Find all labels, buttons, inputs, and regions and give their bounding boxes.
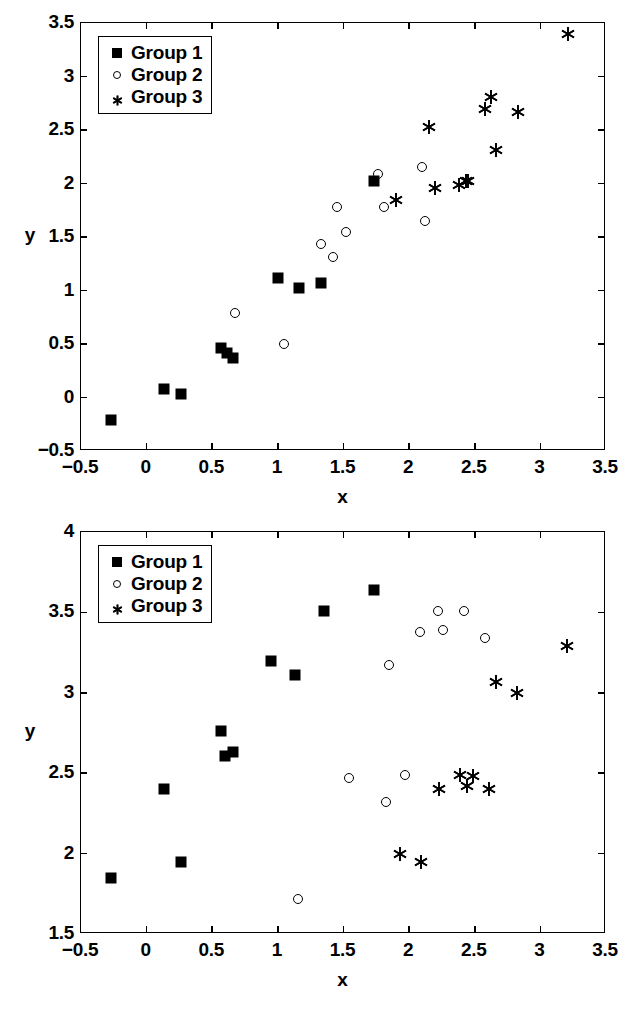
x-tick-label: 0.5 xyxy=(198,939,224,961)
y-tick-right xyxy=(598,772,604,774)
legend-entry: Group 3 xyxy=(106,86,202,108)
data-point-square xyxy=(289,670,300,681)
y-tick-label: 1.5 xyxy=(48,225,74,247)
x-tick-label: 3 xyxy=(534,456,544,478)
data-point-asterisk xyxy=(421,119,436,134)
y-axis-title: y xyxy=(18,224,42,246)
data-point-square xyxy=(175,389,186,400)
x-tick xyxy=(540,443,542,449)
y-tick xyxy=(81,129,87,131)
x-tick-label: 2 xyxy=(403,939,413,961)
y-tick-right xyxy=(598,183,604,185)
data-point-asterisk xyxy=(461,174,476,189)
plot-canvas-bottom: 1.522.533.54−0.500.511.522.533.5xyGroup … xyxy=(0,505,638,1010)
data-point-square xyxy=(228,352,239,363)
data-point-asterisk xyxy=(483,89,498,104)
y-tick-label: 3.5 xyxy=(48,600,74,622)
legend-asterisk-icon xyxy=(106,601,128,612)
y-tick-right xyxy=(598,129,604,131)
x-tick-label: 1 xyxy=(272,939,282,961)
x-tick xyxy=(343,926,345,932)
x-tick-label: 2.5 xyxy=(461,939,487,961)
y-tick xyxy=(81,76,87,78)
data-point-circle xyxy=(384,660,394,670)
y-tick-right xyxy=(598,612,604,614)
x-tick xyxy=(211,443,213,449)
x-tick-top xyxy=(343,23,345,29)
legend-entry: Group 3 xyxy=(106,595,202,617)
x-tick-label: 1 xyxy=(272,456,282,478)
y-tick-right xyxy=(598,692,604,694)
x-tick xyxy=(474,443,476,449)
y-tick-label: 3 xyxy=(64,681,74,703)
legend-label: Group 1 xyxy=(128,43,202,63)
x-tick xyxy=(146,926,148,932)
y-tick-label: 1 xyxy=(64,279,74,301)
legend-entry: Group 1 xyxy=(106,42,202,64)
y-tick xyxy=(81,772,87,774)
data-point-asterisk xyxy=(488,674,503,689)
x-tick xyxy=(146,443,148,449)
x-tick-top xyxy=(343,532,345,538)
y-tick-label: 0.5 xyxy=(48,332,74,354)
data-point-circle xyxy=(417,162,427,172)
y-tick-label: 3.5 xyxy=(48,11,74,33)
x-tick-top xyxy=(211,23,213,29)
x-tick xyxy=(277,926,279,932)
data-point-asterisk xyxy=(560,26,575,41)
y-tick-label: 3 xyxy=(64,65,74,87)
x-tick-label: 2.5 xyxy=(461,456,487,478)
x-tick xyxy=(211,926,213,932)
data-point-circle xyxy=(293,894,303,904)
data-point-circle xyxy=(415,627,425,637)
data-point-asterisk xyxy=(428,180,443,195)
x-tick-top xyxy=(277,23,279,29)
y-tick-right xyxy=(598,853,604,855)
x-tick-label: 0.5 xyxy=(198,456,224,478)
data-point-circle xyxy=(341,227,351,237)
data-point-square xyxy=(106,414,117,425)
data-point-square xyxy=(228,747,239,758)
y-tick-label: 2 xyxy=(64,172,74,194)
data-point-circle xyxy=(420,216,430,226)
data-point-circle xyxy=(328,252,338,262)
y-tick-label: 2 xyxy=(64,842,74,864)
data-point-square xyxy=(368,584,379,595)
legend-circle-icon xyxy=(106,580,128,588)
data-point-circle xyxy=(381,797,391,807)
legend-circle-icon xyxy=(106,71,128,79)
y-tick xyxy=(81,692,87,694)
y-tick xyxy=(81,183,87,185)
data-point-square xyxy=(318,605,329,616)
y-tick-right xyxy=(598,76,604,78)
data-point-asterisk xyxy=(432,782,447,797)
x-tick xyxy=(343,443,345,449)
y-tick-right xyxy=(598,290,604,292)
x-tick xyxy=(408,926,410,932)
x-axis-title: x xyxy=(337,969,348,991)
x-tick-top xyxy=(540,23,542,29)
data-point-circle xyxy=(459,606,469,616)
y-axis-title: y xyxy=(18,720,42,742)
data-point-asterisk xyxy=(509,685,524,700)
x-tick-label: 3 xyxy=(534,939,544,961)
data-point-circle xyxy=(438,625,448,635)
legend-entry: Group 1 xyxy=(106,551,202,573)
data-point-square xyxy=(272,272,283,283)
x-tick xyxy=(474,926,476,932)
data-point-square xyxy=(216,726,227,737)
x-tick-label: 0 xyxy=(140,939,150,961)
data-point-square xyxy=(293,283,304,294)
x-tick-top xyxy=(474,532,476,538)
data-point-square xyxy=(266,655,277,666)
y-tick-label: 4 xyxy=(64,520,74,542)
data-point-asterisk xyxy=(511,104,526,119)
data-point-asterisk xyxy=(413,854,428,869)
data-point-circle xyxy=(400,770,410,780)
legend-entry: Group 2 xyxy=(106,64,202,86)
y-tick-label: 2.5 xyxy=(48,118,74,140)
data-point-asterisk xyxy=(482,782,497,797)
y-tick xyxy=(81,343,87,345)
legend-label: Group 2 xyxy=(128,574,202,594)
plot-canvas-top: −0.500.511.522.533.5−0.500.511.522.533.5… xyxy=(0,0,638,505)
